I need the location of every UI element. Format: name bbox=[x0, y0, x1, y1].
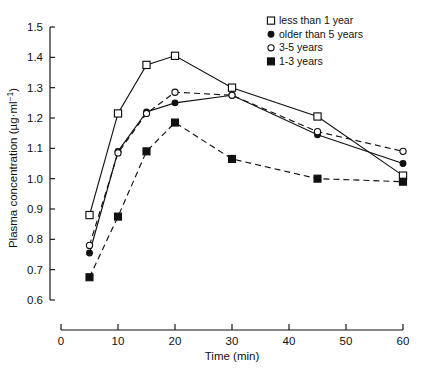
data-point-filled-square bbox=[143, 148, 150, 155]
y-axis: 0.60.70.80.91.01.11.21.31.41.5 bbox=[27, 21, 55, 306]
legend-label-2: 3-5 years bbox=[279, 41, 323, 53]
data-point-filled-square bbox=[314, 175, 321, 182]
data-point-open-square bbox=[171, 52, 178, 59]
legend-marker-3 bbox=[268, 58, 275, 65]
data-point-open-square bbox=[86, 211, 93, 218]
legend-marker-1 bbox=[268, 31, 274, 37]
data-point-open-circle bbox=[400, 148, 406, 154]
y-tick-label: 1.1 bbox=[27, 142, 43, 154]
series-markers-3 bbox=[86, 119, 407, 281]
legend-label-1: older than 5 years bbox=[279, 28, 363, 40]
y-tick-label: 0.6 bbox=[27, 294, 43, 306]
data-point-open-square bbox=[143, 61, 150, 68]
series-line-3 bbox=[90, 123, 404, 278]
y-tick-label: 0.7 bbox=[27, 264, 43, 276]
data-point-filled-square bbox=[172, 119, 179, 126]
y-tick-label: 1.3 bbox=[27, 82, 43, 94]
legend-label-0: less than 1 year bbox=[279, 14, 354, 26]
series-line-2 bbox=[90, 92, 404, 245]
data-point-filled-square bbox=[229, 155, 236, 162]
data-point-filled-circle bbox=[172, 100, 178, 106]
y-tick-label: 1.2 bbox=[27, 112, 43, 124]
data-point-open-square bbox=[114, 110, 121, 117]
x-tick-label: 60 bbox=[397, 335, 410, 347]
axis-titles: Time (min)Plasma concentration (µg·ml−1) bbox=[5, 88, 259, 362]
plasma-concentration-line-chart: 0.60.70.80.91.01.11.21.31.41.5 010203040… bbox=[0, 0, 421, 368]
x-tick-label: 0 bbox=[58, 335, 64, 347]
x-tick-label: 30 bbox=[226, 335, 239, 347]
y-tick-label: 1.4 bbox=[27, 51, 44, 63]
x-tick-label: 40 bbox=[283, 335, 296, 347]
series-markers-2 bbox=[86, 89, 406, 248]
chart-figure: 0.60.70.80.91.01.11.21.31.41.5 010203040… bbox=[0, 0, 421, 368]
x-tick-label: 10 bbox=[112, 335, 125, 347]
data-point-filled-square bbox=[400, 178, 407, 185]
data-point-filled-circle bbox=[87, 250, 93, 256]
y-tick-label: 1.5 bbox=[27, 21, 43, 33]
x-tick-label: 50 bbox=[340, 335, 353, 347]
data-point-open-circle bbox=[143, 110, 149, 116]
data-point-open-circle bbox=[314, 129, 320, 135]
y-tick-label: 1.0 bbox=[27, 173, 43, 185]
series-markers-1 bbox=[87, 92, 406, 256]
x-axis: 0102030405060 bbox=[58, 324, 410, 347]
legend-marker-2 bbox=[268, 45, 274, 51]
y-tick-label: 0.8 bbox=[27, 233, 43, 245]
series-markers-0 bbox=[86, 52, 407, 218]
data-point-open-circle bbox=[115, 150, 121, 156]
data-point-open-circle bbox=[86, 242, 92, 248]
series-line-0 bbox=[90, 56, 404, 215]
x-axis-title: Time (min) bbox=[205, 350, 260, 362]
data-point-filled-square bbox=[115, 213, 122, 220]
data-point-filled-square bbox=[86, 274, 93, 281]
data-point-open-circle bbox=[172, 89, 178, 95]
chart-legend: less than 1 yearolder than 5 years3-5 ye… bbox=[267, 14, 363, 67]
data-point-open-square bbox=[228, 84, 235, 91]
data-point-filled-circle bbox=[400, 161, 406, 167]
data-point-open-square bbox=[314, 113, 321, 120]
data-series-group bbox=[86, 52, 407, 281]
y-axis-title: Plasma concentration (µg·ml−1) bbox=[5, 88, 19, 248]
x-tick-label: 20 bbox=[169, 335, 182, 347]
legend-label-3: 1-3 years bbox=[279, 55, 323, 67]
data-point-open-circle bbox=[229, 92, 235, 98]
legend-marker-0 bbox=[267, 17, 274, 24]
y-tick-label: 0.9 bbox=[27, 203, 43, 215]
